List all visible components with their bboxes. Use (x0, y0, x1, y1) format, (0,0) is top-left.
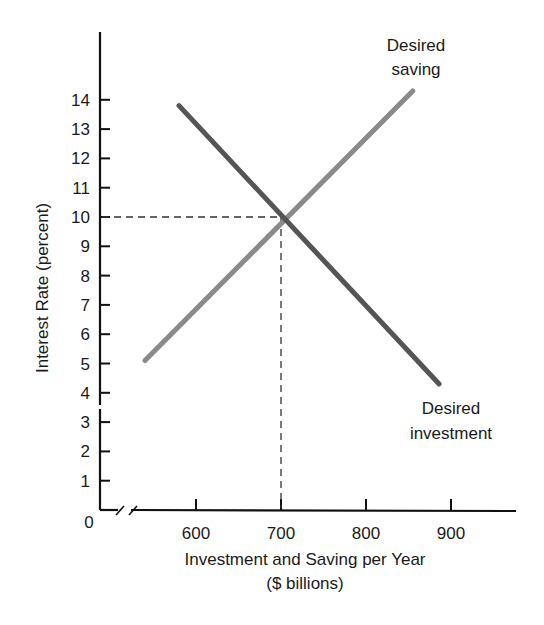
y-tick-label: 5 (81, 355, 90, 374)
y-tick-label: 3 (81, 413, 90, 432)
desired-investment-label: investment (410, 424, 492, 443)
y-tick-label: 12 (71, 149, 90, 168)
y-tick-label: 4 (81, 384, 90, 403)
x-axis-title: Investment and Saving per Year (185, 550, 426, 569)
desired-investment-line (179, 106, 439, 384)
x-tick-label: 800 (352, 524, 380, 543)
x-tick-label: 600 (182, 524, 210, 543)
desired-investment-label: Desired (422, 399, 481, 418)
y-tick-label: 7 (81, 296, 90, 315)
desired-saving-label: saving (391, 60, 440, 79)
chart: 12345678910111213140600700800900Desireds… (0, 0, 544, 625)
x-tick-label: 700 (267, 524, 295, 543)
x-axis-line (131, 510, 516, 511)
y-axis-title: Interest Rate (percent) (33, 203, 52, 373)
desired-saving-line (145, 91, 413, 361)
y-tick-label: 6 (81, 325, 90, 344)
y-tick-label: 11 (72, 179, 90, 198)
desired-saving-label: Desired (387, 36, 446, 55)
y-tick-label: 2 (81, 442, 90, 461)
y-tick-label: 8 (81, 267, 90, 286)
y-tick-label: 13 (71, 120, 90, 139)
y-tick-label: 1 (81, 472, 90, 491)
x-tick-label: 900 (437, 524, 465, 543)
origin-label: 0 (84, 513, 93, 532)
x-axis-units: ($ billions) (266, 574, 343, 593)
y-tick-label: 10 (71, 208, 90, 227)
y-tick-label: 9 (81, 237, 90, 256)
y-tick-label: 14 (71, 91, 90, 110)
